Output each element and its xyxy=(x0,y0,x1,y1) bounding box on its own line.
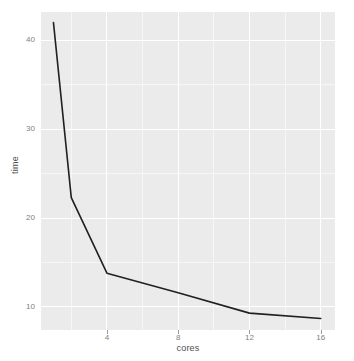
grid-major-lines xyxy=(41,12,335,330)
x-tick-mark xyxy=(249,330,250,334)
x-tick-label: 12 xyxy=(245,334,254,342)
x-tick-mark xyxy=(178,330,179,334)
data-line-time xyxy=(53,23,320,319)
y-tick-label: 10 xyxy=(11,303,35,311)
plot-svg xyxy=(41,12,335,330)
x-tick-mark xyxy=(321,330,322,334)
plot-panel xyxy=(41,12,335,330)
x-tick-mark xyxy=(107,330,108,334)
grid-minor-lines xyxy=(41,12,335,330)
x-tick-label: 4 xyxy=(105,334,109,342)
chart-container: time 10203040 481216 cores xyxy=(0,0,354,361)
x-tick-label: 16 xyxy=(316,334,325,342)
y-tick-label: 40 xyxy=(11,36,35,44)
y-tick-label: 30 xyxy=(11,125,35,133)
x-tick-label: 8 xyxy=(176,334,180,342)
x-axis-title: cores xyxy=(41,343,335,353)
y-axis-tick-labels: 10203040 xyxy=(8,0,35,361)
y-tick-label: 20 xyxy=(11,214,35,222)
